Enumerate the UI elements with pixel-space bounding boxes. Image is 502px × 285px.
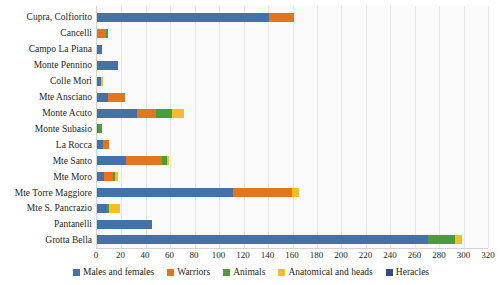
axis-tick-label: 320 xyxy=(481,250,495,260)
bar-segment-males-and-females[interactable] xyxy=(97,61,118,70)
axis-tick-label: 220 xyxy=(359,250,373,260)
bar-segment-males-and-females[interactable] xyxy=(97,13,269,22)
category-label: Mte Ansciano xyxy=(0,90,96,106)
category-label: La Rocca xyxy=(0,138,96,154)
axis-spacer xyxy=(0,249,96,265)
axis-tick-label: 0 xyxy=(94,250,99,260)
axis-tick-label: 240 xyxy=(383,250,397,260)
bar-segment-males-and-females[interactable] xyxy=(97,172,104,181)
bar-segment-males-and-females[interactable] xyxy=(97,156,126,165)
bar-row[interactable] xyxy=(97,137,488,153)
stacked-bar[interactable] xyxy=(97,172,118,181)
bar-segment-warriors[interactable] xyxy=(108,93,125,102)
category-label: Mte Torre Maggiore xyxy=(0,185,96,201)
gridline xyxy=(488,6,489,248)
bar-segment-animals[interactable] xyxy=(156,109,172,118)
axis-tick-label: 300 xyxy=(457,250,471,260)
axis-tick-label: 60 xyxy=(165,250,174,260)
axis-tick-label: 260 xyxy=(408,250,422,260)
stacked-bar[interactable] xyxy=(97,13,294,22)
stacked-bar[interactable] xyxy=(97,29,108,38)
stacked-bar[interactable] xyxy=(97,188,299,197)
stacked-bar[interactable] xyxy=(97,156,169,165)
bar-segment-animals[interactable] xyxy=(428,235,455,244)
bar-segment-males-and-females[interactable] xyxy=(97,45,102,54)
bar-row[interactable] xyxy=(97,58,488,74)
stacked-bar[interactable] xyxy=(97,140,109,149)
bar-segment-males-and-females[interactable] xyxy=(97,188,233,197)
legend-label: Males and females xyxy=(83,267,154,277)
bar-segment-warriors[interactable] xyxy=(137,109,155,118)
bar-row[interactable] xyxy=(97,105,488,121)
axis-tick-label: 80 xyxy=(190,250,199,260)
stacked-bar[interactable] xyxy=(97,109,184,118)
axis-tick-label: 140 xyxy=(261,250,275,260)
legend-item[interactable]: Anatomical and heads xyxy=(278,267,372,277)
legend-item[interactable]: Animals xyxy=(223,267,265,277)
bar-row[interactable] xyxy=(97,200,488,216)
stacked-bar[interactable] xyxy=(97,235,462,244)
bar-row[interactable] xyxy=(97,26,488,42)
bar-segment-males-and-females[interactable] xyxy=(97,204,107,213)
category-label: Mte S. Pancrazio xyxy=(0,201,96,217)
bar-row[interactable] xyxy=(97,232,488,248)
bar-row[interactable] xyxy=(97,42,488,58)
category-axis-labels: Cupra, ColfioritoCancelliCampo La PianaM… xyxy=(0,6,96,249)
bar-segment-males-and-females[interactable] xyxy=(97,109,137,118)
category-label: Cupra, Colfiorito xyxy=(0,10,96,26)
grid-area xyxy=(96,6,488,249)
category-label: Pantanelli xyxy=(0,217,96,233)
bar-row[interactable] xyxy=(97,121,488,137)
legend-label: Warriors xyxy=(177,267,210,277)
bar-segment-anatomical-and-heads[interactable] xyxy=(167,156,169,165)
legend-swatch-icon xyxy=(73,269,80,276)
bar-segment-males-and-females[interactable] xyxy=(97,93,108,102)
stacked-bar[interactable] xyxy=(97,77,103,86)
bar-segment-warriors[interactable] xyxy=(233,188,293,197)
bar-row[interactable] xyxy=(97,184,488,200)
stacked-bar[interactable] xyxy=(97,61,118,70)
bar-row[interactable] xyxy=(97,10,488,26)
bar-segment-anatomical-and-heads[interactable] xyxy=(455,235,462,244)
stacked-bar[interactable] xyxy=(97,93,125,102)
legend-item[interactable]: Males and females xyxy=(73,267,154,277)
bar-segment-warriors[interactable] xyxy=(269,13,293,22)
stacked-bar[interactable] xyxy=(97,220,152,229)
bars-container xyxy=(97,10,488,248)
bar-row[interactable] xyxy=(97,169,488,185)
category-label: Mte Moro xyxy=(0,169,96,185)
bar-segment-warriors[interactable] xyxy=(103,140,109,149)
axis-tick-label: 180 xyxy=(310,250,324,260)
bar-row[interactable] xyxy=(97,153,488,169)
legend-swatch-icon xyxy=(386,269,393,276)
axis-tick-label: 200 xyxy=(334,250,348,260)
bar-segment-warriors[interactable] xyxy=(126,156,161,165)
bar-segment-anatomical-and-heads[interactable] xyxy=(115,172,117,181)
bar-row[interactable] xyxy=(97,89,488,105)
bar-segment-warriors[interactable] xyxy=(97,29,106,38)
stacked-bar[interactable] xyxy=(97,124,102,133)
category-label: Cancelli xyxy=(0,26,96,42)
bar-segment-anatomical-and-heads[interactable] xyxy=(109,204,120,213)
category-label: Monte Subasio xyxy=(0,122,96,138)
bar-segment-animals[interactable] xyxy=(98,124,102,133)
bar-segment-warriors[interactable] xyxy=(104,172,113,181)
legend-label: Anatomical and heads xyxy=(288,267,372,277)
stacked-bar[interactable] xyxy=(97,45,102,54)
axis-tick-label: 40 xyxy=(141,250,150,260)
bar-segment-males-and-females[interactable] xyxy=(97,235,428,244)
legend-item[interactable]: Heracles xyxy=(386,267,429,277)
axis-tick-label: 280 xyxy=(432,250,446,260)
bar-row[interactable] xyxy=(97,73,488,89)
stacked-bar[interactable] xyxy=(97,204,120,213)
category-label: Monte Acuto xyxy=(0,106,96,122)
category-label: Campo La Piana xyxy=(0,42,96,58)
bar-segment-males-and-females[interactable] xyxy=(97,220,152,229)
bar-segment-anatomical-and-heads[interactable] xyxy=(292,188,298,197)
legend-swatch-icon xyxy=(278,269,285,276)
bar-segment-anatomical-and-heads[interactable] xyxy=(101,77,103,86)
legend-item[interactable]: Warriors xyxy=(167,267,210,277)
bar-segment-animals[interactable] xyxy=(106,29,108,38)
bar-segment-anatomical-and-heads[interactable] xyxy=(172,109,184,118)
bar-row[interactable] xyxy=(97,216,488,232)
